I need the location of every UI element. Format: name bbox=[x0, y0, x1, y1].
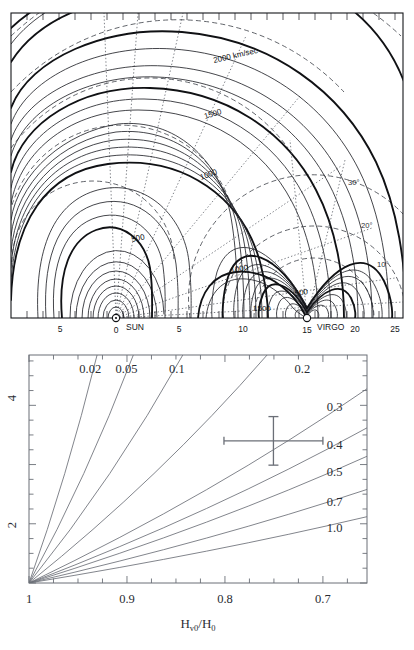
x-axis-title: Hv0/H0 bbox=[180, 616, 215, 633]
fan-curve-0p7 bbox=[29, 489, 367, 583]
axis-label-0: 5 bbox=[58, 324, 63, 334]
virgo-label: VIRGO bbox=[317, 322, 345, 332]
fan-label-0p3: 0.3 bbox=[327, 400, 343, 414]
fan-label-0p5: 0.5 bbox=[327, 465, 343, 479]
y-axis-tick-labels: 4 2 bbox=[5, 394, 19, 528]
axis-title-sub2: 0 bbox=[211, 623, 215, 633]
fan-label-0p05: 0.05 bbox=[116, 362, 138, 376]
fan-curve-group bbox=[29, 355, 367, 583]
angle-label-10: 10° bbox=[377, 260, 388, 269]
axis-title-sub1: v0 bbox=[190, 623, 199, 633]
xtick-label-3: 0.7 bbox=[315, 592, 331, 606]
contour-label-1500-virgo: 1500 bbox=[253, 304, 271, 313]
fan-label-0p02: 0.02 bbox=[79, 362, 101, 376]
axis-label-2: 5 bbox=[177, 324, 182, 334]
fan-curve-0p5 bbox=[29, 456, 367, 583]
xtick-label-2: 0.8 bbox=[217, 592, 233, 606]
contour-label-1500-upper: 1500 bbox=[203, 107, 223, 121]
virgo-contours bbox=[212, 247, 392, 318]
bottom-panel-frame bbox=[29, 355, 367, 583]
ytick-label-4: 4 bbox=[5, 394, 19, 401]
fan-curve-0p1 bbox=[29, 355, 183, 583]
contour-2000-minors bbox=[11, 48, 389, 318]
figure-page: 5 0 5 10 15 20 25 SUN VIRGO 2000 km/sec … bbox=[0, 0, 414, 650]
measurement-errorbar bbox=[224, 417, 323, 466]
contour-label-2000: 2000 km/sec bbox=[212, 46, 258, 65]
body-marker-labels: SUN VIRGO bbox=[126, 322, 345, 332]
axis-label-1: 0 bbox=[114, 325, 119, 335]
top-axis-ticks bbox=[27, 13, 395, 20]
contour-label-1000-virgo: 1000 bbox=[230, 263, 250, 275]
axis-label-3: 10 bbox=[238, 324, 248, 334]
fan-label-0p1: 0.1 bbox=[169, 362, 185, 376]
sun-inner-contours bbox=[70, 251, 164, 318]
angle-label-20: 20° bbox=[361, 221, 372, 230]
dashed-arcs-sun bbox=[11, 0, 401, 262]
axis-label-5: 20 bbox=[350, 324, 360, 334]
x-axis-tick-labels: 10.90.80.7 bbox=[26, 592, 331, 606]
fan-label-0p7: 0.7 bbox=[327, 495, 343, 509]
fan-curve-0p02 bbox=[29, 355, 97, 583]
virgo-marker bbox=[303, 314, 310, 321]
fan-curve-0p2 bbox=[29, 355, 267, 583]
fan-curve-0p05 bbox=[29, 355, 133, 583]
virgo-infall-contour-panel: 5 0 5 10 15 20 25 SUN VIRGO 2000 km/sec … bbox=[0, 0, 414, 340]
hubble-ratio-fan-panel: 0.020.050.10.20.30.40.50.71.0 10.90.80.7… bbox=[0, 340, 414, 650]
xtick-label-1: 0.9 bbox=[119, 592, 135, 606]
fan-label-0p4: 0.4 bbox=[327, 438, 343, 452]
ytick-label-2: 2 bbox=[5, 522, 19, 528]
contour-field bbox=[11, 0, 410, 318]
xtick-label-0: 1 bbox=[26, 592, 32, 606]
fan-curve-labels: 0.020.050.10.20.30.40.50.71.0 bbox=[79, 362, 343, 535]
fan-curve-1p0 bbox=[29, 517, 367, 583]
fan-diagram-svg: 0.020.050.10.20.30.40.50.71.0 10.90.80.7… bbox=[0, 340, 414, 650]
fan-curve-0p3 bbox=[29, 389, 367, 583]
fan-label-1p0: 1.0 bbox=[327, 521, 343, 535]
contour-map-svg: 5 0 5 10 15 20 25 SUN VIRGO 2000 km/sec … bbox=[0, 0, 414, 340]
contour-label-500-virgo: 500 bbox=[294, 287, 309, 298]
bottom-axis-ticks bbox=[29, 355, 367, 583]
axis-title-H2: H bbox=[202, 616, 211, 631]
sun-marker bbox=[112, 314, 119, 321]
sun-label: SUN bbox=[126, 322, 144, 332]
top-axis-value-labels: 5 0 5 10 15 20 25 bbox=[58, 324, 400, 335]
svg-text:Hv0/H0: Hv0/H0 bbox=[180, 616, 215, 633]
axis-title-H1: H bbox=[180, 616, 189, 631]
axis-label-6: 25 bbox=[390, 324, 400, 334]
angle-label-30: 30° bbox=[348, 178, 359, 187]
contour-label-500-sun: 500 bbox=[131, 232, 146, 244]
axis-label-4: 15 bbox=[302, 325, 312, 335]
fan-label-0p2: 0.2 bbox=[295, 362, 311, 376]
